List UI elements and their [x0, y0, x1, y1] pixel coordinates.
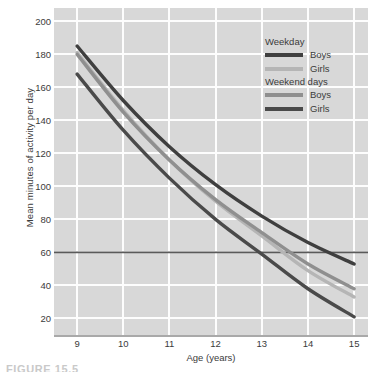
legend-swatch-icon — [265, 53, 303, 57]
y-tick-label: 80 — [12, 214, 54, 225]
y-tick-label: 100 — [12, 181, 54, 192]
legend-group-title: Weekday — [265, 36, 373, 47]
legend-swatch-icon — [265, 93, 303, 97]
y-tick-label: 200 — [12, 16, 54, 27]
legend-entry: Girls — [265, 62, 373, 75]
figure-caption: FIGURE 15.5 — [6, 364, 79, 372]
x-tick-label: 12 — [201, 338, 231, 349]
y-tick-label: 140 — [12, 115, 54, 126]
figure-root: Mean minutes of activity per day 2040608… — [0, 0, 377, 372]
y-tick-label: 160 — [12, 82, 54, 93]
x-tick-label: 11 — [154, 338, 184, 349]
legend-label: Girls — [310, 63, 330, 74]
legend-entry: Boys — [265, 88, 373, 101]
y-axis-tick-labels: 20406080100120140160180200 — [12, 0, 54, 340]
y-tick-label: 20 — [12, 313, 54, 324]
legend-label: Boys — [310, 89, 331, 100]
x-tick-label: 9 — [62, 338, 92, 349]
y-tick-label: 120 — [12, 148, 54, 159]
y-tick-label: 180 — [12, 49, 54, 60]
legend-label: Girls — [310, 103, 330, 114]
x-axis-tick-labels: 9101112131415 — [54, 338, 368, 352]
x-tick-label: 10 — [108, 338, 138, 349]
x-tick-label: 15 — [339, 338, 369, 349]
legend-swatch-icon — [265, 107, 303, 111]
legend-label: Boys — [310, 49, 331, 60]
chart-legend: WeekdayBoysGirlsWeekend daysBoysGirls — [265, 36, 373, 116]
y-tick-label: 40 — [12, 280, 54, 291]
x-axis-title: Age (years) — [54, 352, 368, 363]
x-tick-label: 13 — [247, 338, 277, 349]
legend-entry: Boys — [265, 48, 373, 61]
x-axis-line — [54, 335, 368, 337]
legend-group-title: Weekend days — [265, 76, 373, 87]
legend-swatch-icon — [265, 67, 303, 71]
legend-entry: Girls — [265, 102, 373, 115]
y-tick-label: 60 — [12, 247, 54, 258]
x-tick-label: 14 — [293, 338, 323, 349]
